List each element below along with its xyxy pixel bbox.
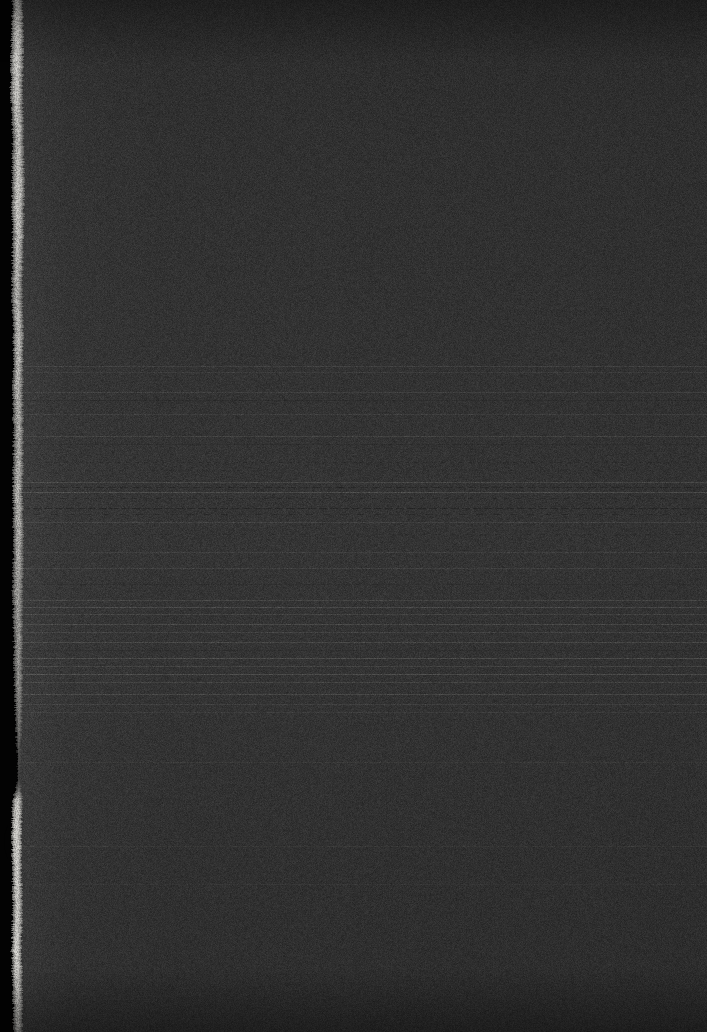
film-grain-texture [0, 0, 707, 1032]
border-notch [0, 825, 14, 859]
scanned-page-image [0, 0, 707, 1032]
bright-page-edge-strip [0, 0, 26, 1032]
